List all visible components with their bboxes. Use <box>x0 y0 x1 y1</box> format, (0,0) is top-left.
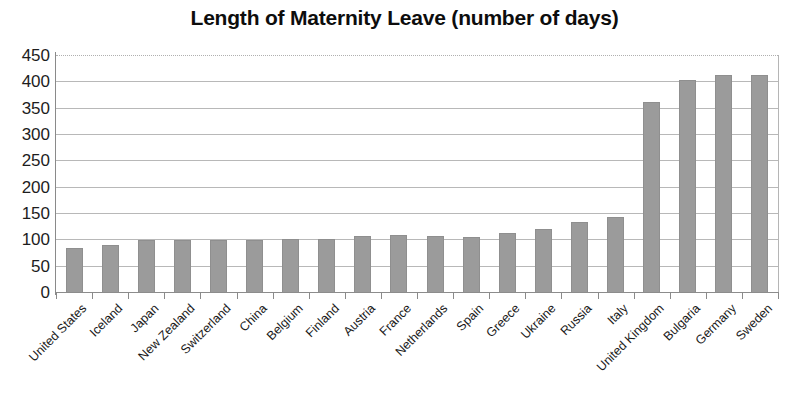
x-axis-tick-mark <box>128 292 129 299</box>
bar-slot <box>200 55 236 292</box>
x-axis-tick-mark <box>634 292 635 299</box>
y-axis-tick-label: 150 <box>6 205 50 222</box>
bar[interactable] <box>138 240 155 292</box>
bar-slot <box>706 55 742 292</box>
plot-area <box>56 55 778 292</box>
bar[interactable] <box>751 75 768 292</box>
bar[interactable] <box>535 229 552 292</box>
x-axis-tick-mark <box>525 292 526 299</box>
bar[interactable] <box>390 235 407 292</box>
x-axis-tick-mark <box>381 292 382 299</box>
bar-slot <box>309 55 345 292</box>
bar-slot <box>164 55 200 292</box>
bar-slot <box>273 55 309 292</box>
bar[interactable] <box>102 245 119 292</box>
x-axis-tick-mark <box>670 292 671 299</box>
bar-slot <box>670 55 706 292</box>
y-axis-tick-label: 50 <box>6 258 50 275</box>
bar[interactable] <box>499 233 516 292</box>
x-axis-tick-mark <box>237 292 238 299</box>
bar[interactable] <box>174 240 191 292</box>
x-axis-tick-mark <box>778 292 779 299</box>
bar[interactable] <box>354 236 371 292</box>
bar-slot <box>417 55 453 292</box>
bar[interactable] <box>463 237 480 292</box>
bar-slot <box>237 55 273 292</box>
y-axis-tick-label: 100 <box>6 231 50 248</box>
bar-slot <box>128 55 164 292</box>
bar-slot <box>453 55 489 292</box>
bar-slot <box>525 55 561 292</box>
y-axis-tick-labels: 450400350300250200150100500 <box>0 55 50 292</box>
bar-slot <box>345 55 381 292</box>
bar-slot <box>92 55 128 292</box>
bars-container <box>56 55 778 292</box>
bar-slot <box>381 55 417 292</box>
y-axis-tick-label: 400 <box>6 73 50 90</box>
plot-right-border <box>778 55 779 293</box>
bar[interactable] <box>318 239 335 292</box>
bar[interactable] <box>643 102 660 292</box>
x-axis-tick-mark <box>273 292 274 299</box>
bar[interactable] <box>571 222 588 292</box>
x-axis-tick-mark <box>489 292 490 299</box>
x-axis-tick-mark <box>706 292 707 299</box>
bar[interactable] <box>607 217 624 292</box>
x-axis-tick-mark <box>164 292 165 299</box>
y-axis-tick-label: 350 <box>6 100 50 117</box>
bar[interactable] <box>210 240 227 292</box>
bar[interactable] <box>282 239 299 292</box>
x-axis-tick-mark <box>742 292 743 299</box>
bar[interactable] <box>246 240 263 292</box>
bar-slot <box>598 55 634 292</box>
bar-slot <box>56 55 92 292</box>
bar-slot <box>742 55 778 292</box>
x-axis-tick-mark <box>200 292 201 299</box>
y-axis-tick-label: 200 <box>6 179 50 196</box>
bar-chart: Length of Maternity Leave (number of day… <box>0 0 809 420</box>
x-axis-tick-mark <box>345 292 346 299</box>
bar-slot <box>489 55 525 292</box>
bar[interactable] <box>66 248 83 292</box>
x-axis-tick-label: United States <box>23 302 89 368</box>
bar-slot <box>634 55 670 292</box>
y-axis-tick-label: 0 <box>6 284 50 301</box>
x-axis-tick-mark <box>309 292 310 299</box>
x-axis-tick-mark <box>92 292 93 299</box>
x-axis-tick-mark <box>453 292 454 299</box>
x-axis-tick-mark <box>561 292 562 299</box>
bar[interactable] <box>715 75 732 293</box>
chart-title: Length of Maternity Leave (number of day… <box>0 6 809 30</box>
x-axis-tick-mark <box>56 292 57 299</box>
bar-slot <box>561 55 597 292</box>
y-axis-tick-label: 300 <box>6 126 50 143</box>
x-axis-tick-mark <box>417 292 418 299</box>
y-axis-tick-label: 450 <box>6 47 50 64</box>
bar[interactable] <box>427 236 444 292</box>
bar[interactable] <box>679 80 696 292</box>
x-axis-tick-mark <box>598 292 599 299</box>
y-axis-tick-label: 250 <box>6 152 50 169</box>
